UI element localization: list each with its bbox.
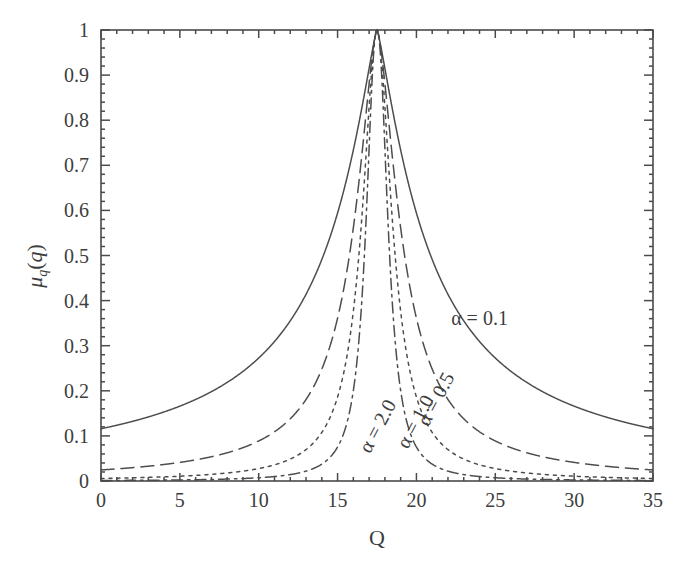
y-tick-label: 0.3 xyxy=(64,335,89,357)
y-tick-label: 0.8 xyxy=(64,109,89,131)
y-axis-title: μq(q) xyxy=(22,244,50,289)
chart-background xyxy=(0,0,687,570)
y-tick-label: 0.7 xyxy=(64,154,89,176)
y-tick-label: 0.4 xyxy=(64,290,89,312)
x-tick-label: 20 xyxy=(406,489,426,511)
y-tick-label: 0.5 xyxy=(64,245,89,267)
x-tick-label: 0 xyxy=(96,489,106,511)
y-tick-label: 0.9 xyxy=(64,64,89,86)
x-tick-label: 35 xyxy=(643,489,663,511)
y-tick-label: 0.6 xyxy=(64,199,89,221)
y-tick-label: 0.1 xyxy=(64,425,89,447)
x-axis-title: Q xyxy=(369,525,385,550)
y-tick-label: 1 xyxy=(79,19,89,41)
x-tick-label: 15 xyxy=(328,489,348,511)
x-tick-label: 25 xyxy=(485,489,505,511)
figure-container: 05101520253035 00.10.20.30.40.50.60.70.8… xyxy=(0,0,687,570)
curve-label-0: α = 0.1 xyxy=(451,307,508,329)
y-tick-label: 0.2 xyxy=(64,380,89,402)
x-tick-label: 5 xyxy=(175,489,185,511)
membership-function-chart: 05101520253035 00.10.20.30.40.50.60.70.8… xyxy=(0,0,687,570)
y-axis-title-text: μq(q) xyxy=(22,244,50,289)
y-tick-label: 0 xyxy=(79,470,89,492)
x-axis-title-text: Q xyxy=(369,525,385,550)
x-tick-label: 10 xyxy=(249,489,269,511)
x-tick-label: 30 xyxy=(564,489,584,511)
